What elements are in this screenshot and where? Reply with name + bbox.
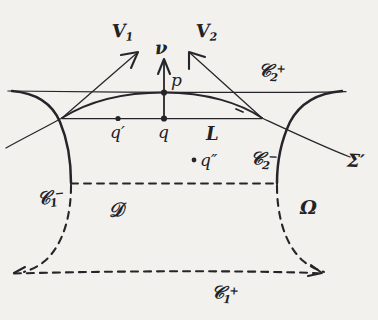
diagram-strokes <box>0 0 378 320</box>
label-region-d: 𝒟 <box>107 199 124 219</box>
label-curve-c2-plus: 𝒞2+ <box>257 61 285 83</box>
label-point-q: q <box>158 124 169 141</box>
vector-v2-shaft <box>190 53 262 118</box>
label-curve-c1-minus: 𝒞1− <box>36 186 66 210</box>
curve-c1-minus-solid <box>12 91 71 183</box>
curve-c2-plus-arc <box>62 93 262 119</box>
label-vector-v1: V1 <box>111 21 133 43</box>
label-curve-c1-plus: 𝒞1+ <box>210 283 238 305</box>
curve-c2-minus-solid <box>277 91 342 183</box>
point-p-dot <box>161 89 167 95</box>
label-point-p: p <box>171 72 182 89</box>
label-curve-c2-minus: 𝒞2− <box>249 149 277 171</box>
vector-v1-shaft <box>62 53 137 118</box>
label-vector-v2: V2 <box>195 21 217 43</box>
point-q-double-prime-dot <box>192 158 197 163</box>
curve-c2-plus-tick <box>236 109 243 112</box>
label-region-omega: Ω <box>300 198 317 217</box>
dashed-line-bottom-c1-plus <box>14 271 318 273</box>
label-point-q-double-prime: q″ <box>200 152 217 169</box>
label-point-q-prime: q′ <box>110 124 125 141</box>
label-segment-L: L <box>206 125 219 143</box>
point-q-dot <box>161 115 167 121</box>
diagram-canvas: V1 ν V2 p 𝒞2+ q′ q L q″ 𝒞2− Σ′ 𝒞1− <box>0 0 378 320</box>
label-sigma-prime: Σ′ <box>347 152 365 171</box>
label-vector-nu: ν <box>155 39 168 58</box>
point-q-prime-dot <box>115 116 120 121</box>
sigma-prime-left-branch <box>6 118 62 148</box>
